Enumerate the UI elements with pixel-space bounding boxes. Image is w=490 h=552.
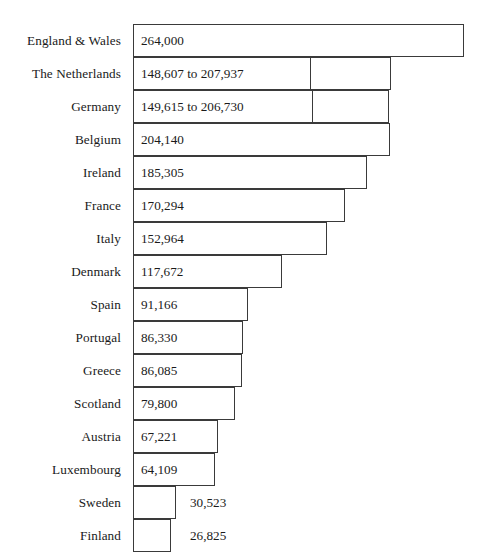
bar-row: Luxembourg64,109 <box>0 453 490 486</box>
category-label: Greece <box>0 354 121 387</box>
bar-value-label: 149,615 to 206,730 <box>141 90 244 123</box>
bar-row: Belgium204,140 <box>0 123 490 156</box>
bar-value-label: 185,305 <box>141 156 184 189</box>
bar-value-label: 264,000 <box>141 24 184 57</box>
category-label: France <box>0 189 121 222</box>
category-label: Finland <box>0 519 121 552</box>
category-label: Austria <box>0 420 121 453</box>
bar-value-label: 79,800 <box>141 387 177 420</box>
category-label: The Netherlands <box>0 57 121 90</box>
bar-value-label: 86,085 <box>141 354 177 387</box>
category-label: Portugal <box>0 321 121 354</box>
bar-value-label: 30,523 <box>190 486 226 519</box>
bar-row: England & Wales264,000 <box>0 24 490 57</box>
bar-row: Spain91,166 <box>0 288 490 321</box>
category-label: Italy <box>0 222 121 255</box>
bar-row: France170,294 <box>0 189 490 222</box>
category-label: Sweden <box>0 486 121 519</box>
bar-value-label: 67,221 <box>141 420 177 453</box>
bar-value-label: 148,607 to 207,937 <box>141 57 244 90</box>
category-label: Luxembourg <box>0 453 121 486</box>
bar-value-label: 64,109 <box>141 453 177 486</box>
category-label: Scotland <box>0 387 121 420</box>
bar-value-label: 204,140 <box>141 123 184 156</box>
category-label: Germany <box>0 90 121 123</box>
bar-row: Scotland79,800 <box>0 387 490 420</box>
bar <box>133 486 176 519</box>
bar-value-label: 170,294 <box>141 189 184 222</box>
bar-row: Greece86,085 <box>0 354 490 387</box>
range-divider <box>312 91 313 124</box>
bar-row: Finland26,825 <box>0 519 490 552</box>
bar-row: Austria67,221 <box>0 420 490 453</box>
bar-row: Denmark117,672 <box>0 255 490 288</box>
category-label: Denmark <box>0 255 121 288</box>
bar-value-label: 91,166 <box>141 288 177 321</box>
category-label: England & Wales <box>0 24 121 57</box>
bar-row: The Netherlands148,607 to 207,937 <box>0 57 490 90</box>
bar-value-label: 117,672 <box>141 255 183 288</box>
bar-value-label: 26,825 <box>190 519 226 552</box>
bar-row: Germany149,615 to 206,730 <box>0 90 490 123</box>
bar-row: Portugal86,330 <box>0 321 490 354</box>
category-label: Spain <box>0 288 121 321</box>
bar-value-label: 152,964 <box>141 222 184 255</box>
bar-row: Italy152,964 <box>0 222 490 255</box>
category-label: Belgium <box>0 123 121 156</box>
category-label: Ireland <box>0 156 121 189</box>
bar-row: Ireland185,305 <box>0 156 490 189</box>
bar-value-label: 86,330 <box>141 321 177 354</box>
bar <box>133 519 171 552</box>
bar-row: Sweden30,523 <box>0 486 490 519</box>
range-divider <box>310 58 311 91</box>
